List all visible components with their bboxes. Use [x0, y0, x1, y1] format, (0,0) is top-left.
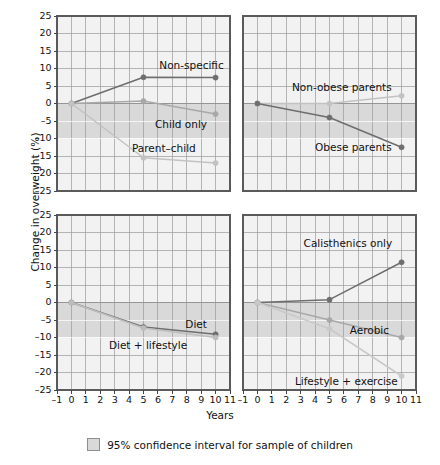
y-tick-label: 0	[45, 97, 51, 108]
x-tick-label: 9	[198, 394, 204, 405]
y-tick-label: –25	[35, 384, 52, 395]
series-label: Calisthenics only	[304, 237, 393, 249]
series-label: Lifestyle + exercise	[295, 375, 398, 387]
y-tick-label: 20	[39, 27, 51, 38]
series-label: Child only	[155, 118, 207, 130]
series-label: Obese parents	[315, 141, 392, 153]
legend-swatch-ci	[87, 438, 100, 451]
x-tick-label: 1	[83, 394, 89, 405]
series-point	[141, 75, 146, 80]
y-tick-label: –10	[35, 331, 52, 342]
x-axis-title: Years	[0, 409, 440, 421]
series-point	[327, 115, 332, 120]
x-tick-label: 6	[341, 394, 347, 405]
x-tick-label: –1	[238, 394, 249, 405]
y-tick-label: –20	[35, 366, 52, 377]
series-point	[213, 335, 218, 340]
y-tick-label: 0	[45, 296, 51, 307]
panel-top-left: Non-specificChild onlyParent–child252015…	[35, 10, 230, 196]
series-label: Diet	[185, 318, 207, 330]
x-tick-label: 5	[140, 394, 146, 405]
series-point	[327, 297, 332, 302]
x-tick-label: 10	[396, 394, 408, 405]
y-tick-label: 10	[39, 261, 51, 272]
y-tick-label: 5	[45, 80, 51, 91]
series-point	[255, 300, 260, 305]
y-tick-label: 15	[39, 45, 51, 56]
series-label: Aerobic	[350, 324, 390, 336]
series-point	[399, 335, 404, 340]
series-point	[213, 111, 218, 116]
x-tick-label: 11	[410, 394, 422, 405]
panel-bottom-left: DietDiet + lifestyle2520151050–5–10–15–2…	[35, 209, 236, 406]
x-tick-label: 8	[370, 394, 376, 405]
series-point	[399, 260, 404, 265]
x-tick-label: 7	[169, 394, 175, 405]
y-axis-title: Change in overweight (%)	[29, 87, 41, 317]
series-point	[213, 160, 218, 165]
x-tick-label: 8	[184, 394, 190, 405]
series-label: Parent–child	[132, 142, 196, 154]
series-point	[399, 93, 404, 98]
x-tick-label: 0	[254, 394, 260, 405]
figure-root: Change in overweight (%) Years Non-speci…	[0, 0, 440, 465]
x-tick-label: 7	[355, 394, 361, 405]
series-point	[141, 325, 146, 330]
panel-top-right: Non-obese parentsObese parents	[243, 16, 416, 191]
x-tick-label: 2	[283, 394, 289, 405]
chart-canvas: Non-specificChild onlyParent–child252015…	[0, 0, 440, 430]
x-tick-label: 3	[112, 394, 118, 405]
series-point	[213, 75, 218, 80]
y-tick-label: 10	[39, 62, 51, 73]
y-tick-label: 25	[39, 209, 51, 220]
x-tick-label: 4	[312, 394, 318, 405]
series-point	[327, 101, 332, 106]
series-point	[327, 317, 332, 322]
y-tick-label: 25	[39, 10, 51, 21]
x-tick-label: 9	[384, 394, 390, 405]
x-tick-label: –1	[52, 394, 63, 405]
panel-bottom-right: Calisthenics onlyAerobicLifestyle + exer…	[238, 215, 422, 405]
y-tick-label: –15	[35, 349, 52, 360]
x-tick-label: 2	[97, 394, 103, 405]
x-tick-label: 11	[224, 394, 236, 405]
y-tick-label: –5	[41, 314, 52, 325]
y-tick-label: 15	[39, 244, 51, 255]
series-point	[399, 145, 404, 150]
series-point	[69, 300, 74, 305]
x-tick-label: 4	[126, 394, 132, 405]
series-point	[141, 155, 146, 160]
x-tick-label: 0	[68, 394, 74, 405]
series-point	[69, 101, 74, 106]
y-tick-label: –5	[41, 115, 52, 126]
series-label: Non-obese parents	[292, 81, 392, 93]
legend-label-ci: 95% confidence interval for sample of ch…	[107, 439, 353, 451]
series-point	[255, 101, 260, 106]
x-tick-label: 3	[298, 394, 304, 405]
x-tick-label: 1	[269, 394, 275, 405]
x-tick-label: 10	[210, 394, 222, 405]
x-tick-label: 5	[326, 394, 332, 405]
series-label: Non-specific	[159, 59, 224, 71]
chart-legend: 95% confidence interval for sample of ch…	[0, 438, 440, 451]
series-point	[399, 373, 404, 378]
y-tick-label: 5	[45, 279, 51, 290]
series-label: Diet + lifestyle	[109, 339, 187, 351]
y-tick-label: 20	[39, 226, 51, 237]
series-point	[327, 326, 332, 331]
series-point	[141, 98, 146, 103]
x-tick-label: 6	[155, 394, 161, 405]
